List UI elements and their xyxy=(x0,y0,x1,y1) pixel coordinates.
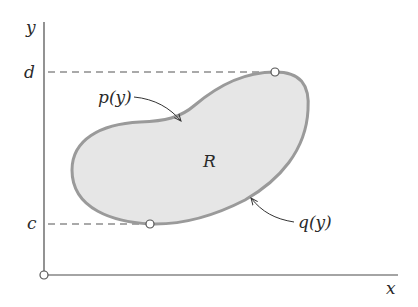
origin-marker xyxy=(40,271,48,279)
top-point-marker xyxy=(271,68,279,76)
region-label-r: R xyxy=(202,151,216,171)
x-axis-label: x xyxy=(386,278,396,298)
region-diagram: y x d c R p(y) q(y) xyxy=(0,0,418,307)
lower-bound-label-c: c xyxy=(27,213,37,233)
bottom-point-marker xyxy=(146,220,154,228)
upper-bound-label-d: d xyxy=(24,62,35,82)
q-curve-arrow xyxy=(251,198,294,222)
y-axis-label: y xyxy=(25,17,36,37)
right-boundary-label-q: q(y) xyxy=(298,212,332,232)
left-boundary-label-p: p(y) xyxy=(98,87,132,107)
